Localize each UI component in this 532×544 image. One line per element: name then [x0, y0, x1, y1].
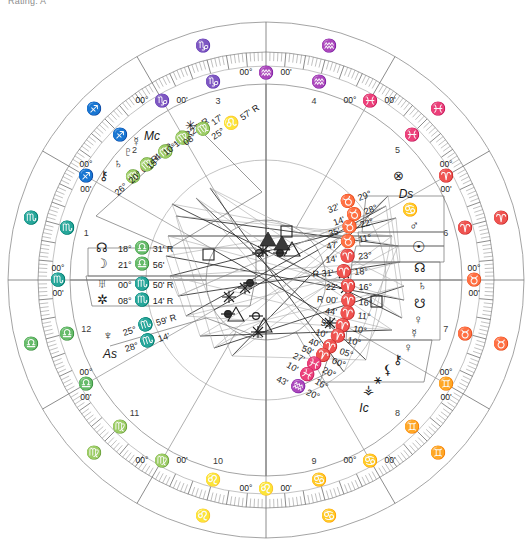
cusp-5-degree: 00°: [344, 95, 357, 105]
house-number-7: 7: [443, 324, 448, 334]
glyph-chiron: ⚷: [99, 168, 109, 183]
cusp-2-sign: ♐: [78, 168, 94, 183]
glyph-jupiter: ♅: [97, 276, 107, 291]
cusp-9-sign: ♋: [362, 453, 378, 468]
glyph-fortune: ⊗: [393, 168, 404, 183]
astrology-chart-page: Rating: A ♏♏♐♐♑♑♒♒♓♓♈♈♉♉♊♊♋♋♌♌♍♍♎♎ 00°♏0…: [0, 0, 532, 544]
glyph-uranus: ♄: [113, 156, 123, 171]
zodiac-glyph-inner-Gemini: ♊: [404, 419, 420, 434]
cusp-7-minute: 00': [468, 288, 479, 298]
cusp-5-sign: ♓: [362, 93, 378, 108]
house-number-3: 3: [215, 96, 220, 106]
zodiac-glyph-inner-Capricorn: ♑: [205, 74, 221, 89]
glyph-part-fortune: ✲: [97, 292, 108, 307]
cusp-12-sign: ♎: [78, 376, 94, 391]
zodiac-glyph-Taurus: ♉: [493, 336, 509, 351]
planet-positions-layer[interactable]: ⚷26° ♍ 05' R♄20° ♍ 44' R♇15° ♍ 17' R☿10°…: [96, 99, 427, 415]
glyph-vertex: ✳: [185, 118, 196, 133]
glyph-south-node: ☋: [414, 296, 426, 311]
cusp-6-minute: 00': [441, 184, 452, 194]
zodiac-glyph-inner-Taurus: ♉: [457, 326, 473, 341]
cusp-4-degree: 00°: [240, 67, 253, 77]
glyph-sun: ☉: [412, 238, 425, 255]
zodiac-glyph-inner-Aries: ♈: [457, 220, 473, 235]
position-north-node: 18° ♎ 31' R: [118, 240, 174, 255]
cusp-6-sign: ♈: [438, 168, 454, 183]
cusp-8-minute: 00': [441, 392, 452, 402]
zodiac-glyph-Aquarius: ♒: [321, 38, 337, 53]
zodiac-glyph-inner-Pisces: ♓: [404, 127, 420, 142]
cusp-8-sign: ♊: [438, 376, 454, 391]
glyph-eris: ⚸: [383, 362, 393, 377]
cusp-4-minute: 00': [280, 67, 291, 77]
cusp-11-minute: 00': [176, 455, 187, 465]
zodiac-glyph-Sagittarius: ♐: [86, 101, 102, 116]
cusp-5-minute: 00': [384, 95, 395, 105]
position-part-fortune: 08° ♏ 14' R: [118, 292, 174, 307]
zodiac-glyph-Pisces: ♓: [430, 101, 446, 116]
cusp-10-degree: 00°: [240, 483, 253, 493]
house-number-5: 5: [395, 145, 400, 155]
glyph-venus-alt: ♀: [413, 312, 423, 327]
planet-north-node[interactable]: ☊18° ♎ 31' R: [96, 240, 174, 255]
zodiac-glyph-Gemini: ♊: [430, 445, 446, 460]
zodiac-glyph-Scorpio: ♏: [23, 210, 39, 225]
glyph-lilith: ♋: [402, 202, 418, 217]
zodiac-glyph-Leo: ♌: [195, 508, 211, 523]
house-number-11: 11: [130, 408, 139, 418]
zodiac-glyph-inner-Leo: ♌: [205, 472, 221, 487]
zodiac-glyph-inner-Libra: ♎: [59, 326, 75, 341]
position-jupiter: 00° ♏ 50' R: [118, 276, 174, 291]
planet-part-fortune[interactable]: ✲08° ♏ 14' R: [97, 292, 174, 307]
position-moon: 21° ♎ 56': [118, 256, 165, 271]
house-number-9: 9: [312, 456, 317, 466]
cusp-7-sign: ♉: [466, 272, 482, 287]
house-number-1: 1: [84, 228, 89, 238]
glyph-moon: ☽: [96, 256, 108, 271]
zodiac-glyph-inner-Cancer: ♋: [311, 472, 327, 487]
glyph-node-head: ☊: [414, 260, 426, 275]
planet-jupiter[interactable]: ♅00° ♏ 50' R: [97, 276, 174, 291]
cusp-2-minute: 00': [80, 184, 91, 194]
glyph-mercury: ☿: [131, 134, 141, 149]
natal-chart-wheel[interactable]: ♏♏♐♐♑♑♒♒♓♓♈♈♉♉♊♊♋♋♌♌♍♍♎♎ 00°♏00'00°♐00'0…: [0, 0, 532, 544]
house-number-4: 4: [312, 96, 317, 106]
zodiac-glyph-Aries: ♈: [493, 210, 509, 225]
cusp-11-sign: ♍: [154, 453, 170, 468]
cusp-12-minute: 00': [80, 392, 91, 402]
cusp-3-degree: 00°: [136, 95, 149, 105]
glyph-mars: ♂: [409, 218, 419, 233]
cusp-1-sign: ♏: [50, 272, 66, 287]
cusp-9-minute: 00': [384, 455, 395, 465]
zodiac-glyph-Libra: ♎: [23, 336, 39, 351]
cusp-4-sign: ♒: [258, 65, 274, 80]
cusp-9-degree: 00°: [344, 455, 357, 465]
glyph-chiron-2: ⚷: [393, 352, 403, 367]
glyph-ascendant: As: [102, 347, 117, 361]
zodiac-glyph-Capricorn: ♑: [195, 38, 211, 53]
glyph-descendant: Ds: [399, 187, 414, 201]
zodiac-glyph-inner-Virgo: ♍: [112, 419, 128, 434]
glyph-saturn: ♄: [417, 278, 427, 293]
zodiac-glyph-Virgo: ♍: [86, 445, 102, 460]
house-number-8: 8: [395, 408, 400, 418]
cusp-3-sign: ♑: [154, 93, 170, 108]
zodiac-glyph-Cancer: ♋: [321, 508, 337, 523]
zodiac-glyph-inner-Sagittarius: ♐: [112, 127, 128, 142]
glyph-north-node: ☊: [96, 240, 108, 255]
cusp-1-minute: 00': [52, 288, 63, 298]
house-number-12: 12: [81, 324, 91, 334]
cusp-10-minute: 00': [280, 483, 291, 493]
glyph-midheaven: Mc: [144, 129, 160, 143]
cusp-10-sign: ♌: [258, 481, 274, 496]
glyph-mercury-2: ☿: [409, 326, 419, 341]
zodiac-glyph-inner-Aquarius: ♒: [311, 74, 327, 89]
house-number-10: 10: [213, 456, 223, 466]
glyph-ceres: ⚶: [363, 382, 374, 397]
glyph-neptune: ♆: [103, 328, 113, 343]
glyph-sedna: ⚹: [374, 372, 382, 387]
glyph-venus: ♀: [403, 340, 413, 355]
cusp-11-degree: 00°: [136, 455, 149, 465]
planet-moon[interactable]: ☽21° ♎ 56': [96, 256, 165, 271]
glyph-imum-coeli: Ic: [359, 401, 368, 415]
